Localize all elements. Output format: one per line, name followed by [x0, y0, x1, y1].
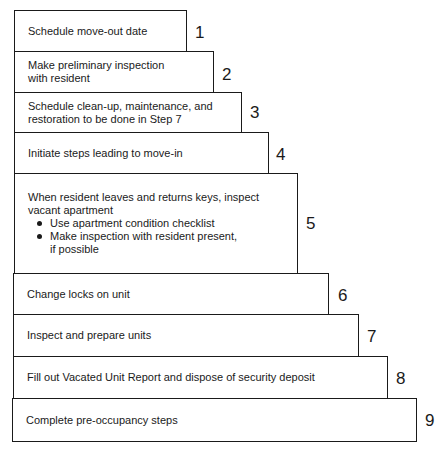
step-5-bullet-list: Use apartment condition checklist Make i…: [28, 217, 297, 256]
step-7-text: Inspect and prepare units: [27, 329, 358, 342]
step-7-number: 7: [367, 328, 376, 345]
step-4-box: Initiate steps leading to move-in: [14, 132, 269, 174]
step-3-text: Schedule clean-up, maintenance, and rest…: [28, 100, 241, 126]
step-2-box: Make preliminary inspection with residen…: [14, 51, 214, 93]
step-6-number: 6: [338, 287, 347, 304]
step-9-box: Complete pre-occupancy steps: [12, 398, 417, 442]
step-9-number: 9: [425, 412, 434, 429]
step-2-text: Make preliminary inspection with residen…: [28, 59, 213, 85]
step-5-bullet-2: Make inspection with resident present, i…: [28, 230, 297, 256]
step-1-number: 1: [195, 24, 204, 41]
step-8-box: Fill out Vacated Unit Report and dispose…: [13, 356, 388, 399]
step-7-box: Inspect and prepare units: [13, 314, 359, 357]
step-2-number: 2: [222, 66, 231, 83]
step-3-box: Schedule clean-up, maintenance, and rest…: [14, 92, 242, 133]
step-5-box: When resident leaves and returns keys, i…: [14, 173, 298, 274]
step-6-text: Change locks on unit: [27, 288, 328, 301]
step-8-text: Fill out Vacated Unit Report and dispose…: [27, 371, 387, 384]
step-1-box: Schedule move-out date: [14, 10, 187, 52]
step-9-text: Complete pre-occupancy steps: [26, 414, 416, 427]
step-5-bullet-1: Use apartment condition checklist: [28, 217, 297, 230]
step-5-number: 5: [306, 215, 315, 232]
step-4-number: 4: [276, 146, 285, 163]
step-8-number: 8: [396, 370, 405, 387]
step-6-box: Change locks on unit: [13, 273, 329, 315]
step-3-number: 3: [250, 104, 259, 121]
step-4-text: Initiate steps leading to move-in: [28, 147, 268, 160]
step-1-text: Schedule move-out date: [28, 25, 186, 38]
move-out-process-diagram: Schedule move-out date 1 Make preliminar…: [0, 0, 444, 457]
step-5-text: When resident leaves and returns keys, i…: [28, 191, 297, 217]
